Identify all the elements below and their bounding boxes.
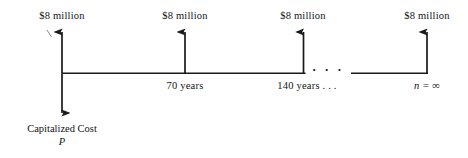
capitalized-cost-symbol: P [27,135,97,148]
inflow-label-0: $8 million [39,10,84,22]
time-label-140-years: 140 years . . . [277,80,336,92]
scan-artifact-mark [47,30,52,37]
inflow-label-140: $8 million [280,10,325,22]
capitalized-cost-label: Capitalized Cost P [27,122,97,148]
time-label-70-years: 70 years [167,80,204,92]
timeline-break-dots: · · · [312,64,344,76]
capitalized-cost-text: Capitalized Cost [27,123,97,134]
time-label-n-infinity: n = ∞ [414,80,440,92]
cash-flow-diagram: $8 million $8 million $8 million $8 mill… [0,0,468,158]
inflow-label-70: $8 million [162,10,207,22]
inflow-label-infinity: $8 million [404,10,449,22]
